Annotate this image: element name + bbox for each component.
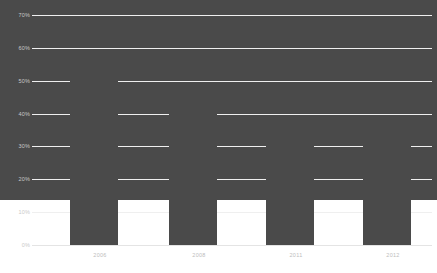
x-tick-label-2006: 2006 (70, 252, 130, 259)
x-axis: 2006 2008 2011 2012 (0, 0, 437, 273)
x-tick-label-2008: 2008 (169, 252, 229, 259)
x-tick-label-2011: 2011 (266, 252, 326, 259)
x-tick-label-2012: 2012 (363, 252, 423, 259)
bar-chart: 70% 60% 50% 40% 30% 20% 10% 0% 2006 2008… (0, 0, 437, 200)
